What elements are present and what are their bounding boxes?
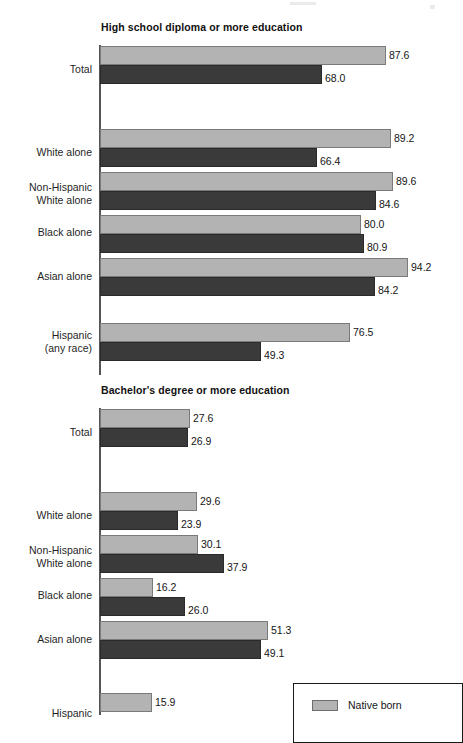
value-label-foreign-white-alone: 66.4 [320, 155, 340, 167]
legend-item-native-born: Native born [312, 699, 402, 711]
category-label-white-alone-ba: White alone [0, 509, 92, 522]
bar-native-white-alone-ba [100, 492, 197, 511]
value-label-native-hispanic: 76.5 [353, 326, 373, 338]
bar-native-black-alone-ba [100, 578, 153, 597]
value-label-native-white-alone: 89.2 [394, 132, 414, 144]
bar-native-non-hispanic-white-alone-ba [100, 535, 198, 554]
bar-foreign-white-alone [100, 148, 317, 167]
category-label-line1: Non-Hispanic [29, 544, 92, 556]
category-label-non-hispanic-white-alone-ba: Non-Hispanic White alone [0, 544, 92, 570]
bar-foreign-non-hispanic-white-alone-ba [100, 554, 224, 573]
category-label-line2: (any race) [45, 342, 92, 354]
value-label-native-hispanic-ba: 15.9 [155, 696, 175, 708]
category-label-line1: Total [70, 63, 92, 75]
bar-native-black-alone [100, 215, 361, 234]
panel-title-high-school: High school diploma or more education [101, 21, 302, 33]
category-label-asian-alone-ba: Asian alone [0, 633, 92, 646]
bar-native-non-hispanic-white-alone [100, 172, 393, 191]
bar-native-asian-alone [100, 258, 408, 277]
value-label-foreign-black-alone-ba: 26.0 [188, 604, 208, 616]
bar-native-total-ba [100, 409, 190, 428]
category-label-black-alone-ba: Black alone [0, 589, 92, 602]
bar-native-hispanic-ba [100, 693, 152, 712]
legend-swatch-native-born-icon [312, 700, 338, 711]
value-label-native-asian-alone: 94.2 [411, 261, 431, 273]
bar-foreign-white-alone-ba [100, 511, 178, 530]
bar-foreign-black-alone-ba [100, 597, 185, 616]
value-label-native-non-hispanic-white-alone: 89.6 [396, 175, 416, 187]
category-label-line2: White alone [37, 557, 92, 569]
value-label-foreign-total-ba: 26.9 [191, 435, 211, 447]
category-label-line1: Black alone [38, 589, 92, 601]
value-label-foreign-asian-alone-ba: 49.1 [264, 647, 284, 659]
value-label-native-total-ba: 27.6 [193, 412, 213, 424]
category-label-line1: Asian alone [37, 633, 92, 645]
bar-foreign-total [100, 65, 322, 84]
category-label-line1: Black alone [38, 226, 92, 238]
value-label-native-black-alone: 80.0 [364, 218, 384, 230]
value-label-foreign-hispanic: 49.3 [264, 349, 284, 361]
bar-foreign-hispanic [100, 342, 261, 361]
category-label-total: Total [0, 63, 92, 76]
category-label-line1: White alone [37, 509, 92, 521]
legend [293, 683, 463, 743]
category-label-line1: Hispanic [52, 329, 92, 341]
bar-native-total [100, 46, 386, 65]
category-label-line2: White alone [37, 194, 92, 206]
value-label-native-asian-alone-ba: 51.3 [271, 624, 291, 636]
scan-artifact [290, 2, 316, 5]
category-label-line1: Total [70, 426, 92, 438]
value-label-foreign-asian-alone: 84.2 [378, 284, 398, 296]
bar-foreign-non-hispanic-white-alone [100, 191, 376, 210]
value-label-native-white-alone-ba: 29.6 [200, 495, 220, 507]
category-label-line1: Hispanic [52, 707, 92, 719]
chart-panel-high-school: High school diploma or more education To… [0, 0, 462, 378]
bar-foreign-asian-alone [100, 277, 375, 296]
category-label-black-alone: Black alone [0, 226, 92, 239]
bar-native-white-alone [100, 129, 391, 148]
bar-foreign-black-alone [100, 234, 364, 253]
category-label-asian-alone: Asian alone [0, 270, 92, 283]
bar-foreign-asian-alone-ba [100, 640, 261, 659]
category-label-hispanic-ba: Hispanic [0, 707, 92, 720]
value-label-foreign-total: 68.0 [325, 72, 345, 84]
bar-foreign-total-ba [100, 428, 188, 447]
category-label-hispanic: Hispanic (any race) [0, 329, 92, 355]
value-label-native-non-hispanic-white-alone-ba: 30.1 [201, 538, 221, 550]
panel-title-bachelors: Bachelor's degree or more education [101, 384, 290, 396]
value-label-foreign-non-hispanic-white-alone: 84.6 [379, 198, 399, 210]
legend-label-native-born: Native born [348, 699, 402, 711]
scan-artifact [430, 5, 435, 9]
value-label-native-total: 87.6 [389, 49, 409, 61]
category-label-non-hispanic-white-alone: Non-Hispanic White alone [0, 181, 92, 207]
category-label-total-ba: Total [0, 426, 92, 439]
category-label-line1: Asian alone [37, 270, 92, 282]
value-label-foreign-black-alone: 80.9 [367, 241, 387, 253]
category-label-line1: White alone [37, 146, 92, 158]
category-label-line1: Non-Hispanic [29, 181, 92, 193]
value-label-native-black-alone-ba: 16.2 [156, 581, 176, 593]
bar-native-hispanic [100, 323, 350, 342]
value-label-foreign-white-alone-ba: 23.9 [181, 518, 201, 530]
bar-native-asian-alone-ba [100, 621, 268, 640]
chart-panel-bachelors: Bachelor's degree or more education Tota… [0, 378, 462, 715]
category-label-white-alone: White alone [0, 146, 92, 159]
value-label-foreign-non-hispanic-white-alone-ba: 37.9 [227, 561, 247, 573]
